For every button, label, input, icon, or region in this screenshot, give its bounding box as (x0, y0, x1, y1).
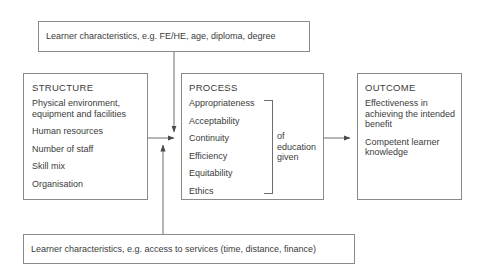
list-item: Competent learner knowledge (365, 137, 459, 158)
list-item: Skill mix (32, 161, 144, 172)
outcome-title: OUTCOME (365, 82, 416, 93)
list-item: Ethics (189, 186, 269, 197)
structure-title: STRUCTURE (32, 82, 93, 93)
list-item: Number of staff (32, 144, 144, 155)
process-grouping-bracket (264, 100, 273, 194)
list-item: Human resources (32, 126, 144, 137)
list-item: Physical environment, equipment and faci… (32, 98, 144, 119)
list-item: Appropriateness (189, 98, 269, 109)
process-title: PROCESS (189, 82, 238, 93)
list-item: Organisation (32, 179, 144, 190)
diagram-canvas: Learner characteristics, e.g. FE/HE, age… (0, 0, 484, 273)
bottom-banner-label: Learner characteristics, e.g. access to … (31, 244, 316, 254)
list-item: Effectiveness in achieving the intended … (365, 98, 459, 130)
top-banner-label: Learner characteristics, e.g. FE/HE, age… (46, 31, 276, 41)
list-item: Acceptability (189, 116, 269, 127)
process-item-list: Appropriateness Acceptability Continuity… (189, 98, 269, 203)
list-item: Equitability (189, 168, 269, 179)
structure-item-list: Physical environment, equipment and faci… (32, 98, 144, 196)
list-item: Efficiency (189, 151, 269, 162)
outcome-item-list: Effectiveness in achieving the intended … (365, 98, 459, 165)
list-item: Continuity (189, 133, 269, 144)
process-bracket-label: of education given (277, 131, 316, 163)
